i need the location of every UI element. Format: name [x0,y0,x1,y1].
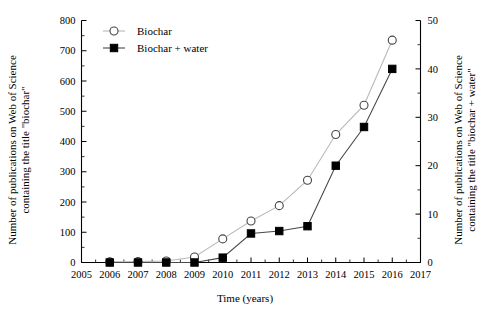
data-point-biochar [304,176,312,184]
y-axis-left-tick-label: 300 [60,166,76,177]
data-point-biochar [360,101,368,109]
y-axis-right-tick-label: 10 [428,209,439,220]
y-axis-left-tick-label: 200 [60,197,76,208]
data-point-biochar-water [332,162,339,169]
y-axis-left-tick-label: 800 [60,15,76,26]
data-point-biochar [247,217,255,225]
legend-label-biochar-water: Biochar + water [137,42,208,54]
data-point-biochar [275,202,283,210]
data-point-biochar-water [389,65,396,72]
x-axis-tick-label: 2009 [184,269,205,280]
y-axis-left-tick-label: 0 [70,257,75,268]
y-axis-right-tick-label: 40 [428,64,439,75]
data-point-biochar-water [191,259,198,266]
x-axis-tick-label: 2014 [325,269,347,280]
y-axis-right-tick-label: 50 [428,15,439,26]
x-axis-tick-label: 2008 [156,269,177,280]
data-point-biochar-water [360,123,367,130]
x-axis-tick-label: 2006 [99,269,120,280]
data-point-biochar-water [304,223,311,230]
x-axis-tick-label: 2017 [410,269,431,280]
legend-label-biochar: Biochar [137,25,172,37]
y-axis-right-tick-label: 0 [428,257,433,268]
data-point-biochar-water [276,227,283,234]
data-point-biochar-water [134,259,141,266]
data-point-biochar [219,235,227,243]
x-axis-tick-label: 2005 [71,269,92,280]
x-axis-tick-label: 2012 [269,269,290,280]
x-axis-tick-label: 2010 [212,269,233,280]
data-point-biochar [388,36,396,44]
data-point-biochar-water [247,230,254,237]
data-point-biochar [332,131,340,139]
x-axis-tick-label: 2016 [382,269,403,280]
x-axis-tick-label: 2013 [297,269,318,280]
x-axis-title: Time (years) [217,292,273,305]
y-axis-left-title: Number of publications on Web of Science… [6,55,31,245]
data-point-biochar-water [219,254,226,261]
y-axis-left-tick-label: 600 [60,76,76,87]
y-axis-left-tick-label: 700 [60,45,76,56]
y-axis-left-tick-label: 400 [60,136,76,147]
y-axis-right-title: Number of publications on Web of Science… [452,55,477,245]
data-point-biochar-water [106,259,113,266]
legend-marker-biochar [110,27,118,35]
y-axis-right-tick-label: 20 [428,160,439,171]
y-axis-left-tick-label: 100 [60,227,76,238]
x-axis-tick-label: 2007 [128,269,149,280]
x-axis-tick-label: 2015 [354,269,375,280]
series-line-biochar [110,40,393,262]
publications-line-chart: 0100200300400500600700800010203040502005… [0,0,489,314]
x-axis-tick-label: 2011 [241,269,262,280]
legend-marker-biochar-water [110,44,117,51]
y-axis-left-tick-label: 500 [60,106,76,117]
data-point-biochar-water [163,259,170,266]
y-axis-right-tick-label: 30 [428,112,439,123]
chart-figure: 0100200300400500600700800010203040502005… [0,0,489,314]
